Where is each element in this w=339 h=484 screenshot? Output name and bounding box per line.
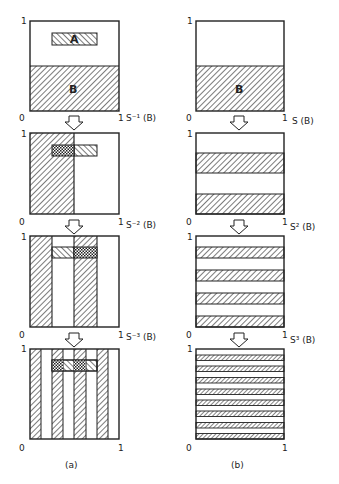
panel-a3: 1 0 1 S⁻³ (B) (19, 232, 156, 342)
svg-text:1: 1 (21, 129, 27, 139)
svg-text:1: 1 (282, 217, 288, 227)
svg-text:1: 1 (118, 113, 124, 123)
svg-text:1: 1 (118, 330, 124, 340)
region-a-label: A (70, 33, 79, 46)
svg-text:1: 1 (187, 129, 193, 139)
svg-text:0: 0 (19, 217, 25, 227)
panel-a1: A B 1 0 1 S⁻¹ (B) (19, 16, 156, 123)
down-arrow-icon (65, 220, 83, 234)
caption-a: (a) (65, 460, 78, 470)
down-arrow-icon (230, 220, 248, 234)
down-arrow-icon (230, 116, 248, 130)
baker-map-diagram: A B 1 0 1 S⁻¹ (B) 1 0 1 S⁻² (B) 1 0 1 S⁻… (0, 0, 339, 484)
map-label: S⁻¹ (B) (126, 113, 156, 123)
map-label: S (B) (292, 116, 314, 126)
down-arrow-icon (230, 333, 248, 347)
svg-text:1: 1 (282, 443, 288, 453)
caption-b: (b) (231, 460, 244, 470)
svg-text:1: 1 (282, 113, 288, 123)
svg-text:0: 0 (186, 217, 192, 227)
svg-text:1: 1 (187, 232, 193, 242)
svg-text:1: 1 (187, 344, 193, 354)
down-arrow-icon (65, 116, 83, 130)
svg-text:1: 1 (187, 16, 193, 26)
svg-text:1: 1 (118, 217, 124, 227)
panel-b4: 1 0 1 (186, 344, 288, 453)
panel-a2: 1 0 1 S⁻² (B) (19, 129, 156, 230)
panel-b2: 1 0 1 S² (B) (186, 129, 315, 232)
svg-text:0: 0 (19, 113, 25, 123)
map-label: S² (B) (290, 222, 315, 232)
svg-text:0: 0 (19, 330, 25, 340)
svg-text:1: 1 (282, 330, 288, 340)
svg-text:1: 1 (21, 232, 27, 242)
svg-text:0: 0 (186, 443, 192, 453)
panel-b1: B 1 0 1 S (B) (186, 16, 314, 126)
down-arrow-icon (65, 333, 83, 347)
panel-a4: 1 0 1 (19, 344, 124, 453)
svg-text:0: 0 (19, 443, 25, 453)
region-b-label: B (235, 83, 243, 96)
svg-text:1: 1 (21, 344, 27, 354)
map-label: S³ (B) (290, 335, 315, 345)
svg-text:1: 1 (21, 16, 27, 26)
map-label: S⁻² (B) (126, 220, 156, 230)
map-label: S⁻³ (B) (126, 332, 156, 342)
panel-b3: 1 0 1 S³ (B) (186, 232, 315, 345)
region-b-label: B (69, 83, 77, 96)
svg-text:1: 1 (118, 443, 124, 453)
svg-text:0: 0 (186, 113, 192, 123)
svg-text:0: 0 (186, 330, 192, 340)
